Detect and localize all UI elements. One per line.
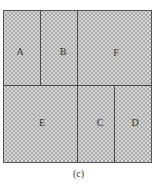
partition-diagram: A B F E C D bbox=[3, 10, 152, 163]
region-label: A bbox=[16, 46, 23, 57]
region-label: E bbox=[39, 117, 45, 128]
region-label: F bbox=[113, 47, 119, 58]
region-d: D bbox=[115, 86, 152, 163]
region-a: A bbox=[4, 11, 40, 85]
region-b: B bbox=[41, 11, 77, 85]
region-label: D bbox=[131, 117, 138, 128]
figure-caption: (c) bbox=[0, 168, 157, 179]
region-f: F bbox=[78, 11, 152, 85]
region-c: C bbox=[78, 86, 114, 163]
region-label: B bbox=[60, 46, 67, 57]
region-e: E bbox=[4, 86, 77, 163]
region-label: C bbox=[97, 117, 104, 128]
